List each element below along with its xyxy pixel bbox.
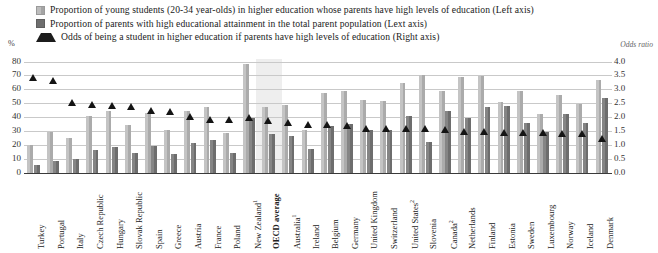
triangle-marker-icon [36, 33, 56, 42]
odds-ratio-marker [127, 103, 135, 110]
odds-ratio-marker [49, 77, 57, 84]
bar-young-students [302, 130, 308, 173]
bar-parents [563, 114, 569, 172]
odds-ratio-marker [402, 125, 410, 132]
odds-ratio-marker [558, 130, 566, 137]
right-axis-tick: 3.0 [614, 83, 638, 93]
bar-parents [132, 153, 138, 172]
bar-young-students [47, 132, 53, 173]
bar-parents [210, 140, 216, 173]
dark-square-swatch-icon [36, 19, 45, 28]
chart-legend: Proportion of young students (20-34 year… [36, 3, 636, 44]
bar-group [63, 62, 83, 173]
category-label: Portugal [56, 220, 66, 249]
bar-group [122, 62, 142, 173]
bar-group [455, 62, 475, 173]
category-label: Turkey [36, 224, 46, 249]
bar-young-students [282, 105, 288, 173]
odds-ratio-marker [284, 119, 292, 126]
odds-ratio-marker [29, 74, 37, 81]
bar-parents [73, 159, 79, 173]
bar-group [259, 62, 279, 173]
odds-ratio-marker [500, 129, 508, 136]
bar-group [514, 62, 534, 173]
bar-parents [171, 154, 177, 173]
category-label: Switzerland [389, 208, 399, 249]
category-label: Austria [193, 224, 203, 249]
category-label: Belgium [330, 219, 340, 249]
category-label: Hungary [115, 219, 125, 249]
bar-group [279, 62, 299, 173]
odds-ratio-marker [460, 128, 468, 135]
bar-young-students [66, 138, 72, 173]
bar-parents [308, 149, 314, 173]
category-label: Luxembourg [546, 205, 556, 249]
bar-young-students [125, 125, 131, 173]
bar-young-students [537, 114, 543, 172]
legend-label-young-students: Proportion of young students (20-34 year… [50, 3, 534, 17]
bar-parents [112, 147, 118, 173]
bar-young-students [223, 133, 229, 173]
bar-group [44, 62, 64, 173]
odds-ratio-marker [147, 107, 155, 114]
bar-group [475, 62, 495, 173]
odds-ratio-marker [362, 125, 370, 132]
category-label: Greece [173, 225, 183, 249]
bar-group [220, 62, 240, 173]
category-label: Czech Republic [95, 194, 105, 249]
bar-group [318, 62, 338, 173]
category-label: Estonia [507, 223, 517, 249]
category-label: OECD average [271, 193, 281, 249]
odds-ratio-marker [264, 117, 272, 124]
bar-group [240, 62, 260, 173]
bar-group [298, 62, 318, 173]
odds-ratio-marker [598, 135, 606, 142]
legend-item-odds: Odds of being a student in higher educat… [36, 30, 636, 44]
bar-parents [93, 150, 99, 173]
bar-parents [445, 111, 451, 173]
bar-young-students [576, 104, 582, 173]
bar-young-students [106, 111, 112, 173]
right-axis-tick: 4.0 [614, 56, 638, 66]
bar-group [416, 62, 436, 173]
bar-group [338, 62, 358, 173]
bar-parents [406, 116, 412, 173]
gridline [24, 173, 612, 174]
bar-group [377, 62, 397, 173]
bar-group [83, 62, 103, 173]
odds-ratio-marker [441, 126, 449, 133]
bar-group [436, 62, 456, 173]
category-label: Slovenia [428, 219, 438, 249]
light-square-swatch-icon [36, 6, 45, 15]
legend-label-parents: Proportion of parents with high educatio… [50, 17, 427, 31]
category-label: Netherlands [467, 207, 477, 249]
bar-young-students [341, 91, 347, 173]
bar-group [592, 62, 612, 173]
bar-group [102, 62, 122, 173]
odds-ratio-marker [166, 108, 174, 115]
category-label: Italy [75, 233, 85, 249]
category-label: Ireland [311, 225, 321, 249]
bar-young-students [380, 101, 386, 172]
bar-parents [151, 146, 157, 172]
left-axis-tick: 20 [1, 139, 21, 149]
left-axis-tick: 80 [1, 56, 21, 66]
category-label: Germany [350, 217, 360, 249]
category-label: Slovak Republic [134, 192, 144, 249]
bar-young-students [184, 111, 190, 172]
right-axis-tick: 0.5 [614, 153, 638, 163]
bar-parents [34, 165, 40, 173]
legend-item-young-students: Proportion of young students (20-34 year… [36, 3, 636, 17]
bar-group [181, 62, 201, 173]
category-label: Sweden [526, 222, 536, 249]
right-axis-title: Odds ratio [620, 40, 653, 49]
bar-young-students [458, 77, 464, 173]
bar-group [161, 62, 181, 173]
bar-parents [367, 130, 373, 173]
odds-ratio-marker [206, 116, 214, 123]
bar-parents [191, 143, 197, 173]
bar-parents [230, 153, 236, 172]
legend-item-parents: Proportion of parents with high educatio… [36, 17, 636, 31]
category-label: Spain [154, 229, 164, 249]
category-label: France [213, 226, 223, 249]
